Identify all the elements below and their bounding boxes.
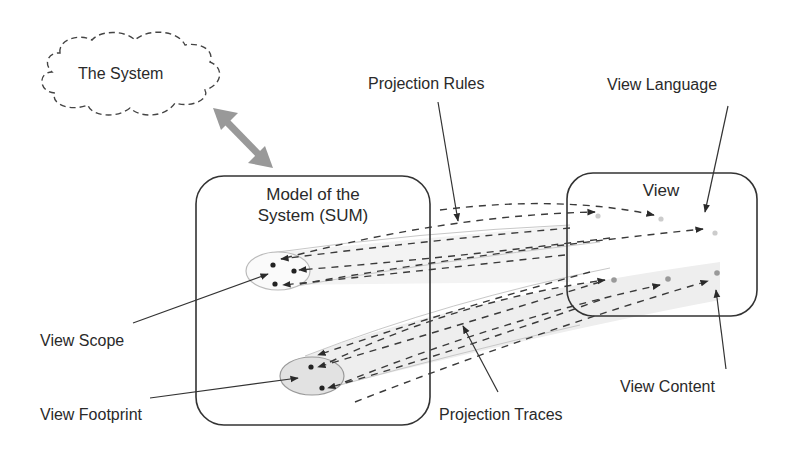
model-label-line1: Model of the bbox=[266, 185, 360, 204]
view-language-dots bbox=[595, 213, 717, 235]
view-language-pointer bbox=[705, 106, 728, 212]
footprint-dot bbox=[319, 385, 324, 390]
view-label: View bbox=[643, 181, 680, 200]
projection-diagram: The System Model of the System (SUM) Vie… bbox=[0, 0, 791, 449]
model-label-line2: System (SUM) bbox=[258, 206, 369, 225]
view-footprint-label: View Footprint bbox=[40, 406, 143, 423]
scope-dot bbox=[291, 268, 296, 273]
view-language-label: View Language bbox=[607, 76, 717, 93]
view-scope-label: View Scope bbox=[40, 332, 124, 349]
system-label: The System bbox=[78, 65, 163, 82]
scope-dot bbox=[272, 281, 277, 286]
projection-rules-label: Projection Rules bbox=[368, 75, 485, 92]
projection-traces-label: Projection Traces bbox=[439, 406, 563, 423]
view-content-pointer bbox=[716, 290, 726, 369]
view-content-label: View Content bbox=[620, 378, 715, 395]
footprint-dot bbox=[308, 364, 313, 369]
view-footprint-pointer bbox=[150, 378, 298, 398]
scope-dot bbox=[270, 262, 275, 267]
view-scope-pointer bbox=[133, 274, 268, 323]
double-arrow-icon bbox=[213, 108, 273, 168]
projection-rules-pointer bbox=[438, 102, 458, 221]
system-cloud[interactable]: The System bbox=[42, 32, 220, 115]
